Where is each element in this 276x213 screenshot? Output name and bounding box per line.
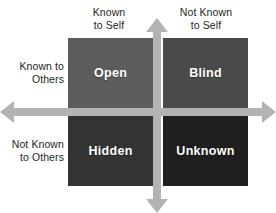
quadrant-open-label: Open [94,66,127,80]
quadrant-hidden[interactable]: Hidden [68,116,153,186]
horizontal-axis-double-arrow-icon [0,98,276,126]
quadrant-unknown-label: Unknown [176,144,234,158]
axis-label-not-known-to-self: Not Known to Self [163,6,249,31]
axis-label-known-to-self: Known to Self [66,6,152,31]
quadrant-unknown[interactable]: Unknown [163,116,248,186]
axis-label-not-known-to-others: Not Known to Others [2,138,64,163]
quadrant-blind-label: Blind [189,66,222,80]
johari-window-diagram: Known to Self Not Known to Self Known to… [0,0,276,213]
axis-label-known-to-others: Known to Others [2,60,64,85]
quadrant-hidden-label: Hidden [88,144,132,158]
